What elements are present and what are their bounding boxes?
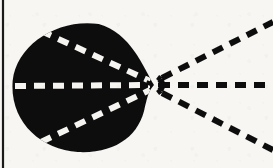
- figure-container: [0, 0, 273, 168]
- apex-tick: [158, 90, 161, 94]
- apex-tick: [158, 76, 161, 80]
- inner-dash-ray-axis: [15, 85, 150, 86]
- apex-tick: [146, 82, 151, 84]
- page-border-rule: [2, 0, 4, 168]
- figure-canvas: [0, 0, 273, 168]
